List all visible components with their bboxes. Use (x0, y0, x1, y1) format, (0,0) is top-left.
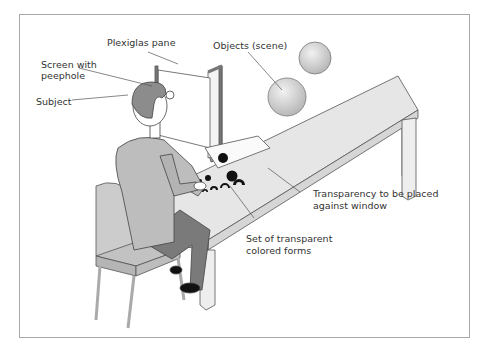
label-screen-line2: peephole (41, 70, 85, 81)
label-plexiglas-pane: Plexiglas pane (107, 37, 176, 48)
object-sphere-front (268, 78, 306, 116)
label-transparency-line2: against window (313, 200, 387, 211)
object-sphere-back (299, 42, 331, 74)
experiment-illustration (0, 0, 480, 348)
label-forms-line2: colored forms (246, 245, 311, 256)
label-forms-line1: Set of transparent (246, 233, 332, 244)
label-transparency-line1: Transparency to be placed (313, 188, 438, 199)
label-objects-scene: Objects (scene) (213, 40, 287, 51)
label-screen-line1: Screen with (41, 59, 97, 70)
label-subject: Subject (36, 96, 72, 107)
